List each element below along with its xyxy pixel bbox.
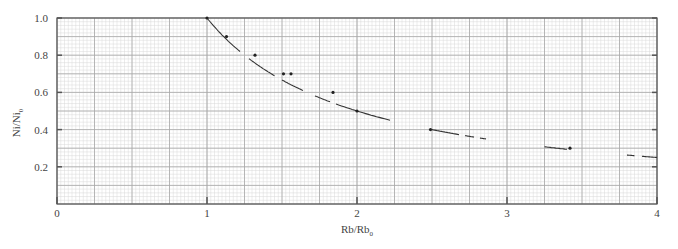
- data-point: [282, 72, 285, 75]
- curve-segment: [336, 104, 390, 120]
- curve-segment: [432, 130, 459, 135]
- x-tick-label: 0: [54, 207, 60, 219]
- x-tick-label: 3: [504, 207, 510, 219]
- data-point: [253, 54, 256, 57]
- curve-segment: [315, 96, 330, 102]
- chart: 0.20.40.60.81.0 01234 Rb/Rb0 Ni/Ni0: [0, 0, 678, 249]
- data-point: [331, 91, 334, 94]
- curve-segment: [627, 155, 635, 156]
- x-tick-label: 2: [354, 207, 360, 219]
- data-point: [225, 35, 228, 38]
- x-axis-title: Rb/Rb0: [341, 223, 374, 238]
- data-point: [355, 109, 358, 112]
- data-point: [429, 128, 432, 131]
- data-point: [568, 147, 571, 150]
- curve-segment: [642, 156, 657, 157]
- y-tick-label: 0.2: [34, 161, 48, 173]
- x-tick-label: 4: [654, 207, 660, 219]
- y-tick-label: 0.8: [34, 49, 48, 61]
- y-tick-label: 0.4: [34, 124, 48, 136]
- y-tick-label: 0.6: [34, 86, 48, 98]
- curve-segment: [207, 18, 240, 52]
- data-point: [205, 16, 208, 19]
- y-tick-label: 1.0: [34, 12, 48, 24]
- curve-segment: [282, 80, 303, 91]
- data-point: [289, 72, 292, 75]
- x-tick-label: 1: [204, 207, 210, 219]
- y-axis-title: Ni/Ni0: [10, 108, 25, 137]
